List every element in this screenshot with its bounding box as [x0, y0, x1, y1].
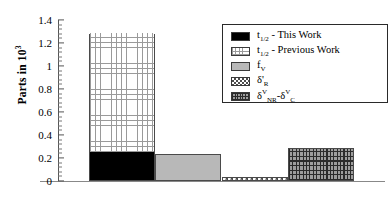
- bar-segment-delta-V-nr-minus-c[interactable]: [288, 148, 354, 181]
- chart-legend: t1/2 - This Workt1/2 - Previous WorkfVδ'…: [222, 24, 388, 103]
- legend-t-half-previous-work-swatch: [231, 47, 250, 56]
- legend-delta-prime-R-swatch: [231, 77, 250, 86]
- legend-t-half-previous-work[interactable]: t1/2 - Previous Work: [231, 44, 387, 59]
- y-tick-label: 1: [16, 61, 52, 72]
- y-tick-label: 1.2: [16, 38, 52, 49]
- x-axis-baseline: [40, 181, 385, 182]
- legend-f-v-label: fV: [257, 60, 266, 73]
- y-tick-label: 0.2: [16, 153, 52, 164]
- y-tick-label: 1.4: [16, 15, 52, 26]
- bar-segment-t-half-this-work[interactable]: [90, 152, 154, 180]
- legend-delta-V-nr-c-label: δVNR-δVC: [257, 89, 295, 104]
- legend-t-half-this-work[interactable]: t1/2 - This Work: [231, 29, 387, 44]
- bar-segment-f-v[interactable]: [155, 154, 221, 181]
- y-tick-label: 0.4: [16, 130, 52, 141]
- legend-f-v[interactable]: fV: [231, 59, 387, 74]
- bar-group-1[interactable]: [89, 34, 155, 181]
- y-tick-label: 0.8: [16, 84, 52, 95]
- legend-t-half-previous-work-label: t1/2 - Previous Work: [257, 45, 340, 58]
- y-tick-label: 0.6: [16, 107, 52, 118]
- bar-segment-delta-prime-R[interactable]: [222, 177, 288, 181]
- legend-delta-V-nr-c-swatch: [231, 92, 250, 101]
- bar-segment-t-half-previous-work[interactable]: [90, 33, 154, 151]
- bar-chart-figure: Parts in 103 1.41.210.80.60.40.20 t1/2 -…: [0, 0, 392, 204]
- y-axis-label-text: Parts in 10: [16, 49, 28, 104]
- legend-t-half-this-work-swatch: [231, 32, 250, 41]
- y-tick-label: 0: [16, 176, 52, 187]
- legend-delta-prime-R[interactable]: δ'R: [231, 74, 387, 89]
- legend-f-v-swatch: [231, 62, 250, 71]
- legend-t-half-this-work-label: t1/2 - This Work: [257, 30, 322, 43]
- legend-delta-V-nr-c[interactable]: δVNR-δVC: [231, 89, 387, 104]
- legend-delta-prime-R-label: δ'R: [257, 75, 269, 88]
